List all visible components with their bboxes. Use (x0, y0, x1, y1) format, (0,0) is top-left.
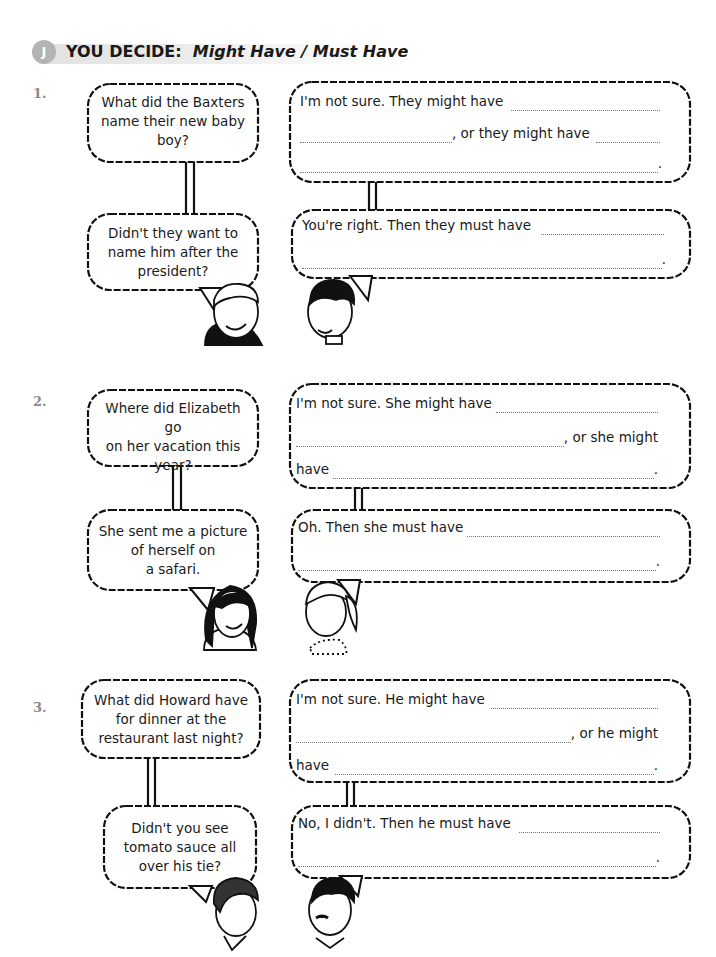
answer-line: No, I didn't. Then he must have (298, 814, 660, 833)
exercise-number: 1. (33, 86, 47, 101)
blank-field[interactable] (300, 158, 658, 173)
blank-field[interactable] (302, 254, 662, 269)
blank-field[interactable] (467, 522, 660, 537)
blank-field[interactable] (541, 220, 664, 235)
answer-line: . (298, 848, 660, 867)
exercise-number: 2. (33, 394, 47, 409)
blank-field[interactable] (335, 760, 654, 775)
answer-line: I'm not sure. She might have (296, 394, 658, 413)
answer-line: You're right. Then they must have (302, 216, 664, 235)
blank-field[interactable] (296, 432, 564, 447)
blank-field[interactable] (298, 852, 656, 867)
followup-text: Didn't you see tomato sauce all over his… (108, 819, 252, 876)
question-text: Where did Elizabeth go on her vacation t… (96, 399, 250, 475)
followup-text: She sent me a picture of herself on a sa… (96, 522, 250, 579)
answer-line: , or they might have (300, 124, 660, 143)
question-text: What did the Baxters name their new baby… (96, 93, 250, 150)
blank-field[interactable] (298, 556, 656, 571)
blank-field[interactable] (300, 128, 452, 143)
answer-line: . (300, 154, 662, 173)
question-text: What did Howard have for dinner at the r… (86, 691, 256, 748)
answer-line: . (302, 250, 666, 269)
blank-field[interactable] (333, 464, 654, 479)
blank-field[interactable] (511, 96, 660, 111)
answer-line: , or he might (296, 724, 658, 743)
blank-field[interactable] (519, 818, 660, 833)
answer-line: . (298, 552, 660, 571)
answer-line: have . (296, 756, 658, 775)
blank-field[interactable] (596, 128, 660, 143)
answer-line: Oh. Then she must have (298, 518, 660, 537)
exercise-number: 3. (33, 700, 47, 715)
answer-line: have . (296, 460, 658, 479)
blank-field[interactable] (491, 694, 658, 709)
blank-field[interactable] (496, 398, 658, 413)
followup-text: Didn't they want to name him after the p… (96, 224, 250, 281)
answer-line: , or she might (296, 428, 658, 447)
answer-line: I'm not sure. He might have (296, 690, 658, 709)
blank-field[interactable] (296, 728, 571, 743)
answer-line: I'm not sure. They might have (300, 92, 660, 111)
